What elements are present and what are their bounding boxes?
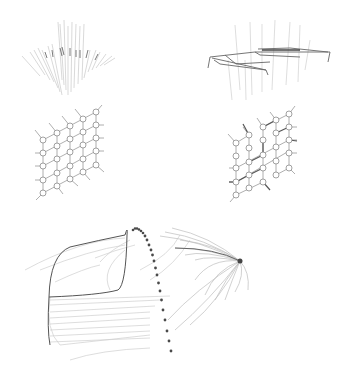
convergence-point [238,259,243,264]
panel-top-left-streamline-fan [22,20,115,95]
figure [0,0,348,373]
panel-bottom-left-bold-streamline [48,230,127,345]
panel-top-right-frame [208,48,330,75]
panel-top-right-faint [228,20,310,100]
figure-canvas [0,0,348,373]
panel-bottom-right-streamlines [160,228,248,330]
panel-mid-left-nodes [40,109,99,196]
dotted-trajectory [132,227,173,352]
